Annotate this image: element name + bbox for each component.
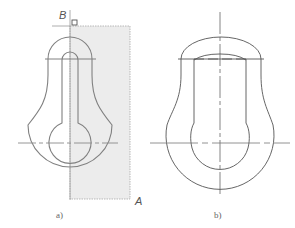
label-a: A — [134, 195, 142, 207]
label-b: B — [59, 9, 66, 21]
panel-b: b) — [150, 12, 290, 220]
caption-a: a) — [56, 210, 63, 220]
caption-b: b) — [214, 210, 222, 220]
selection-window[interactable] — [70, 26, 130, 199]
pick-box-icon[interactable] — [72, 20, 77, 25]
drawing-canvas: B A a) b) — [0, 0, 295, 228]
panel-a: B A a) — [18, 9, 142, 220]
